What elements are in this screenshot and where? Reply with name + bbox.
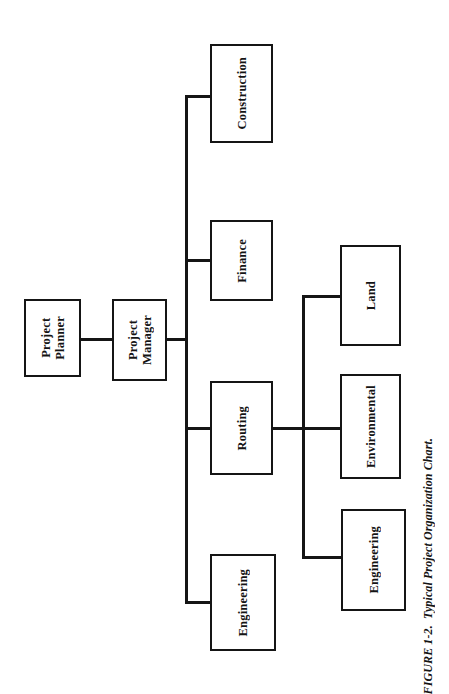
- node-finance-label: Finance: [235, 239, 249, 283]
- connector-trunk-main: [185, 95, 188, 604]
- node-engineering-sub: Engineering: [341, 509, 406, 611]
- node-project-manager-label: Project Manager: [126, 315, 154, 365]
- connector-planner-to-manager: [81, 338, 112, 341]
- node-engineering-sub-label: Engineering: [367, 526, 381, 593]
- connector-trunk-to-finance: [185, 259, 211, 262]
- node-environmental: Environmental: [340, 374, 401, 479]
- connector-routing-to-subtrunk: [273, 427, 304, 430]
- connector-subtrunk-to-engineering: [302, 556, 342, 559]
- connector-subtrunk-to-land: [302, 295, 341, 298]
- node-land-label: Land: [364, 281, 378, 310]
- connector-subtrunk-to-environmental: [302, 427, 341, 430]
- node-project-planner: Project Planner: [24, 299, 81, 377]
- node-land: Land: [340, 245, 401, 346]
- node-engineering-top-label: Engineering: [236, 569, 250, 636]
- node-construction-label: Construction: [235, 57, 249, 130]
- connector-trunk-to-routing: [185, 427, 211, 430]
- node-routing: Routing: [210, 381, 273, 475]
- connector-trunk-to-construction: [185, 95, 211, 98]
- node-project-manager: Project Manager: [112, 299, 167, 381]
- node-engineering-top: Engineering: [210, 554, 276, 651]
- organization-chart: Project Planner Project Manager Construc…: [0, 0, 449, 694]
- connector-manager-to-trunk: [167, 338, 187, 341]
- node-routing-label: Routing: [235, 406, 249, 450]
- node-project-planner-label: Project Planner: [39, 316, 67, 360]
- node-finance: Finance: [210, 220, 273, 301]
- connector-trunk-to-engineering: [185, 601, 211, 604]
- figure-caption-text: FIGURE 1-2. Typical Project Organization…: [421, 420, 436, 694]
- figure-caption: FIGURE 1-2. Typical Project Organization…: [413, 0, 443, 694]
- node-construction: Construction: [210, 44, 273, 143]
- node-environmental-label: Environmental: [364, 385, 378, 468]
